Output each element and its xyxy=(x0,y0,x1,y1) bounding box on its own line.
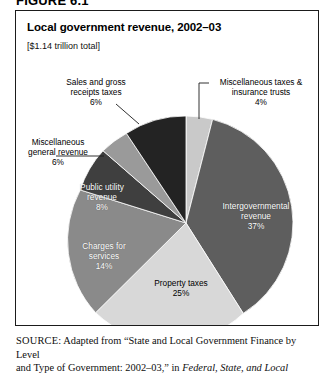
source-note: SOURCE: Adapted from “State and Local Go… xyxy=(16,334,318,375)
label-charges-line1: Charges for xyxy=(64,241,144,251)
label-misc-taxes-line2: insurance trusts xyxy=(202,87,319,97)
label-utility-percent: 8% xyxy=(60,202,144,212)
source-publication-title: Federal, State, and Local xyxy=(182,362,288,373)
label-intergovernmental-revenue: Intergovernmental revenue 37% xyxy=(202,201,310,231)
figure-container: FIGURE 6.1 Local government revenue, 200… xyxy=(0,0,333,375)
label-inter-line2: revenue xyxy=(202,211,310,221)
source-label: SOURCE: xyxy=(16,335,61,346)
label-charges-line2: services xyxy=(64,251,144,261)
label-misc-general-revenue: Miscellaneous general revenue 6% xyxy=(15,137,104,167)
label-inter-line1: Intergovernmental xyxy=(202,201,310,211)
label-sales-gross-receipts: Sales and gross receipts taxes 6% xyxy=(44,77,148,107)
label-misc-general-line2: general revenue xyxy=(15,147,104,157)
label-utility-line2: revenue xyxy=(60,192,144,202)
label-utility-line1: Public utility xyxy=(60,182,144,192)
chart-panel: Local government revenue, 2002–03 [$1.14… xyxy=(15,10,319,326)
source-text-line2: and Type of Government: 2002–03,” in xyxy=(16,362,182,373)
label-charges-for-services: Charges for services 14% xyxy=(64,241,144,271)
label-inter-percent: 37% xyxy=(202,221,310,231)
label-misc-general-percent: 6% xyxy=(15,157,104,167)
label-misc-taxes-percent: 4% xyxy=(202,97,319,107)
label-misc-general-line1: Miscellaneous xyxy=(15,137,104,147)
label-misc-taxes-insurance: Miscellaneous taxes & insurance trusts 4… xyxy=(202,77,319,107)
label-property-percent: 25% xyxy=(134,288,228,298)
pie-chart: Sales and gross receipts taxes 6% Miscel… xyxy=(16,11,319,326)
label-charges-percent: 14% xyxy=(64,261,144,271)
label-property-line1: Property taxes xyxy=(134,278,228,288)
figure-number: FIGURE 6.1 xyxy=(16,0,89,8)
label-property-taxes: Property taxes 25% xyxy=(134,278,228,298)
label-misc-taxes-line1: Miscellaneous taxes & xyxy=(202,77,319,87)
label-sales-line2: receipts taxes xyxy=(44,87,148,97)
label-public-utility-revenue: Public utility revenue 8% xyxy=(60,182,144,212)
label-sales-line1: Sales and gross xyxy=(44,77,148,87)
label-sales-percent: 6% xyxy=(44,97,148,107)
